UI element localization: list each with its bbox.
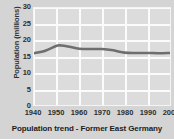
y-axis-tick-labels: 051015202530 <box>14 3 31 107</box>
plot-area <box>33 7 171 106</box>
chart-figure: Population (millions) 051015202530 19401… <box>0 0 174 139</box>
data-line <box>34 8 170 105</box>
x-tick-label: 2000 <box>158 108 174 117</box>
chart-title: Population trend - Former East Germany <box>0 124 174 133</box>
y-tick-label: 25 <box>14 20 31 28</box>
series-path-population <box>34 45 170 53</box>
y-tick-label: 15 <box>14 53 31 61</box>
y-tick-label: 20 <box>14 36 31 44</box>
y-tick-label: 5 <box>14 86 31 94</box>
y-tick-label: 30 <box>14 3 31 11</box>
x-axis-tick-labels: 1940195019601970198019902000 <box>0 108 174 119</box>
y-tick-label: 10 <box>14 69 31 77</box>
